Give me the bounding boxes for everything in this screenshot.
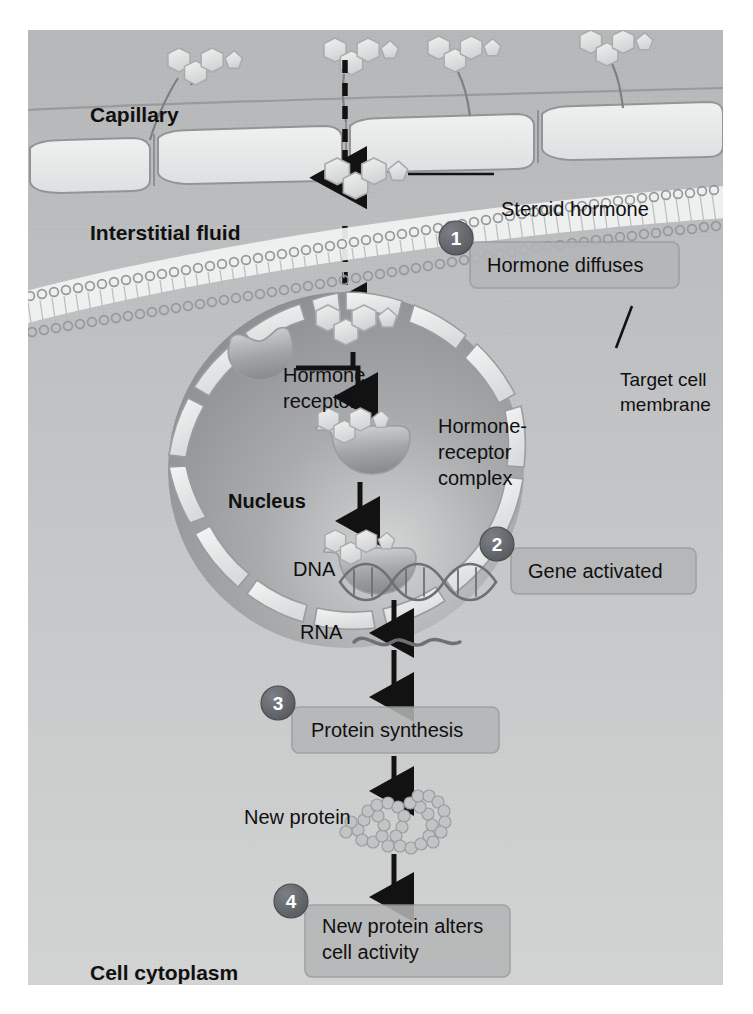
- structure-label-target-cell-membrane-line1: Target cell: [620, 369, 707, 390]
- step-badge-number-1: 1: [451, 228, 462, 249]
- step-badge-3: 3: [261, 686, 295, 720]
- diagram-canvas: Hormone diffuses1Gene activated2Protein …: [28, 30, 723, 985]
- step-badge-2: 2: [480, 527, 514, 561]
- structure-label-hormone-receptor-complex-line2: receptor: [438, 441, 512, 463]
- structure-label-rna: RNA: [300, 621, 343, 643]
- structure-label-hormone-receptor-line2: receptor: [283, 390, 357, 412]
- step-label-1: Hormone diffuses: [487, 254, 643, 276]
- region-label-capillary: Capillary: [90, 103, 179, 126]
- step-label-3: Protein synthesis: [311, 719, 463, 741]
- step-badge-4: 4: [274, 884, 308, 918]
- step-badge-number-3: 3: [273, 693, 284, 714]
- structure-label-new-protein: New protein: [244, 806, 351, 828]
- structure-label-hormone-receptor-line1: Hormone: [283, 364, 365, 386]
- step-label-4-line2: cell activity: [322, 941, 419, 963]
- step-badge-1: 1: [439, 221, 473, 255]
- step-label-2: Gene activated: [528, 560, 663, 582]
- structure-label-hormone-receptor-complex-line3: complex: [438, 467, 512, 489]
- step-label-4: New protein alters: [322, 915, 483, 937]
- region-label-nucleus: Nucleus: [228, 490, 306, 512]
- structure-label-hormone-receptor-complex-line1: Hormone-: [438, 415, 527, 437]
- region-label-cell-cytoplasm: Cell cytoplasm: [90, 961, 238, 984]
- step-badge-number-2: 2: [492, 534, 503, 555]
- step-badge-number-4: 4: [286, 891, 297, 912]
- structure-label-steroid-hormone: Steroid hormone: [501, 198, 649, 220]
- structure-label-dna: DNA: [293, 558, 336, 580]
- region-label-interstitial-fluid: Interstitial fluid: [90, 221, 241, 244]
- structure-label-target-cell-membrane-line2: membrane: [620, 394, 711, 415]
- steroid-hormone-diagram: Hormone diffuses1Gene activated2Protein …: [0, 0, 753, 1014]
